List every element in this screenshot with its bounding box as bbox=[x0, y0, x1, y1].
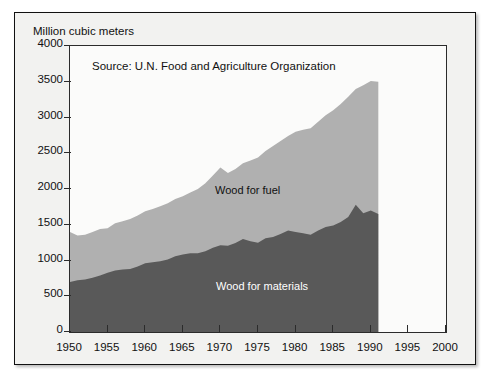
x-tick-label: 1995 bbox=[387, 341, 427, 353]
x-tick-mark bbox=[107, 325, 108, 332]
x-tick-label: 1965 bbox=[162, 341, 202, 353]
y-tick-mark bbox=[64, 295, 71, 296]
x-tick-label: 1990 bbox=[350, 341, 390, 353]
y-tick-mark bbox=[64, 260, 71, 261]
y-tick-mark bbox=[64, 224, 71, 225]
x-tick-label: 2000 bbox=[425, 341, 465, 353]
x-tick-mark bbox=[332, 325, 333, 332]
y-tick-label: 2500 bbox=[17, 144, 63, 156]
y-tick-label: 3000 bbox=[17, 109, 63, 121]
series-label-wood-for-materials: Wood for materials bbox=[216, 280, 308, 292]
y-tick-label: 1500 bbox=[17, 216, 63, 228]
x-tick-label: 1970 bbox=[199, 341, 239, 353]
x-tick-label: 1950 bbox=[49, 341, 89, 353]
x-tick-mark bbox=[407, 325, 408, 332]
chart-frame: Million cubic meters Source: U.N. Food a… bbox=[14, 12, 476, 365]
y-tick-label: 500 bbox=[17, 287, 63, 299]
x-tick-mark bbox=[144, 325, 145, 332]
x-tick-mark bbox=[182, 325, 183, 332]
plot-area: Source: U.N. Food and Agriculture Organi… bbox=[69, 45, 447, 333]
x-tick-mark bbox=[257, 325, 258, 332]
x-tick-mark bbox=[295, 325, 296, 332]
x-tick-label: 1985 bbox=[312, 341, 352, 353]
source-note: Source: U.N. Food and Agriculture Organi… bbox=[92, 60, 336, 72]
y-tick-label: 2000 bbox=[17, 180, 63, 192]
y-tick-label: 3500 bbox=[17, 73, 63, 85]
y-axis-title: Million cubic meters bbox=[33, 25, 134, 37]
x-tick-mark bbox=[219, 325, 220, 332]
y-tick-mark bbox=[64, 117, 71, 118]
y-tick-label: 0 bbox=[17, 323, 63, 335]
y-tick-mark bbox=[64, 152, 71, 153]
x-tick-label: 1955 bbox=[87, 341, 127, 353]
x-tick-mark bbox=[445, 325, 446, 332]
y-tick-label: 1000 bbox=[17, 252, 63, 264]
x-tick-label: 1960 bbox=[124, 341, 164, 353]
y-tick-mark bbox=[64, 45, 71, 46]
y-tick-label: 4000 bbox=[17, 37, 63, 49]
x-tick-mark bbox=[370, 325, 371, 332]
y-tick-mark bbox=[64, 188, 71, 189]
y-tick-mark bbox=[64, 81, 71, 82]
x-tick-label: 1980 bbox=[275, 341, 315, 353]
series-label-wood-for-fuel: Wood for fuel bbox=[215, 184, 280, 196]
x-tick-label: 1975 bbox=[237, 341, 277, 353]
x-tick-mark bbox=[69, 325, 70, 332]
